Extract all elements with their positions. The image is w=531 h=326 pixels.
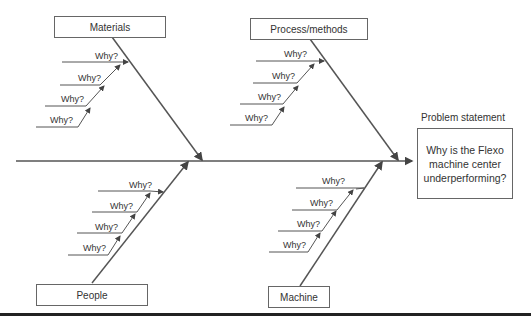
- problem-statement-label: Problem statement: [421, 112, 505, 123]
- category-box-process: Process/methods: [250, 18, 368, 40]
- bone-materials: [112, 37, 202, 160]
- problem-line: underperforming?: [418, 171, 512, 185]
- why-label: Why?: [297, 219, 320, 229]
- why-label: Why?: [95, 222, 118, 232]
- category-box-machine: Machine: [268, 286, 330, 308]
- problem-line: machine center: [418, 157, 512, 171]
- why-label: Why?: [284, 49, 307, 59]
- why-label: Why?: [310, 198, 333, 208]
- category-box-materials: Materials: [54, 16, 166, 38]
- why-label: Why?: [129, 180, 152, 190]
- why-label: Why?: [83, 243, 106, 253]
- why-label: Why?: [95, 51, 118, 61]
- why-label: Why?: [283, 240, 306, 250]
- why-label: Why?: [78, 73, 101, 83]
- problem-statement-box: Why is the Flexo machine center underper…: [417, 128, 513, 199]
- why-label: Why?: [322, 176, 345, 186]
- why-label: Why?: [110, 201, 133, 211]
- why-label: Why?: [258, 92, 281, 102]
- why-label: Why?: [245, 113, 268, 123]
- why-label: Why?: [50, 115, 73, 125]
- bone-process: [310, 39, 398, 160]
- bottom-rule: [0, 313, 531, 316]
- problem-line: Why is the Flexo: [418, 143, 512, 157]
- why-label: Why?: [272, 71, 295, 81]
- category-box-people: People: [36, 284, 148, 306]
- why-label: Why?: [61, 94, 84, 104]
